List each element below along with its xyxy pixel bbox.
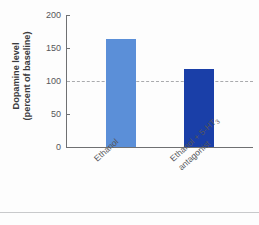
y-axis-title: Dopamine level (percent of baseline) <box>0 0 44 152</box>
y-axis-title-line1: Dopamine level <box>11 43 21 110</box>
y-tick-label-100: 100 <box>46 76 61 86</box>
bar-chart-figure: Dopamine level (percent of baseline) 200… <box>0 0 259 225</box>
x-axis-spine <box>66 147 253 148</box>
y-tick-mark-200 <box>66 15 70 16</box>
y-tick-label-150: 150 <box>46 43 61 53</box>
y-tick-mark-50 <box>66 114 70 115</box>
bar-ethanol <box>106 39 136 147</box>
y-tick-label-0: 0 <box>56 142 61 152</box>
y-axis-title-line2: (percent of baseline) <box>22 32 33 121</box>
y-tick-label-200: 200 <box>46 10 61 20</box>
y-tick-label-50: 50 <box>51 109 61 119</box>
y-axis-title-text: Dopamine level (percent of baseline) <box>11 32 33 121</box>
reference-line-100 <box>67 81 253 82</box>
y-tick-mark-150 <box>66 48 70 49</box>
bottom-divider <box>0 212 259 213</box>
